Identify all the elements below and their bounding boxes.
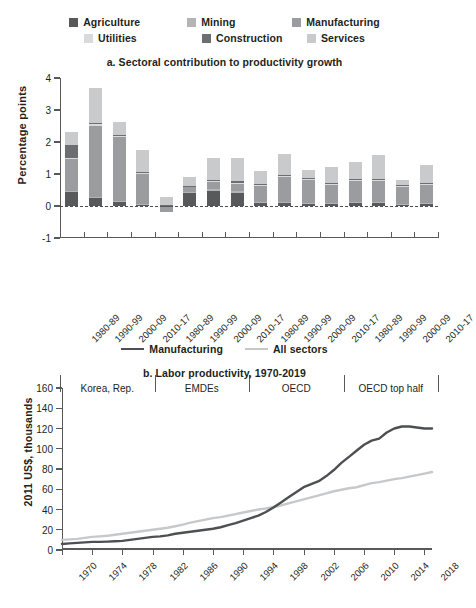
bar-segment — [302, 203, 315, 204]
bar-segment — [65, 159, 78, 191]
bar-segment — [372, 202, 385, 203]
bar-segment — [89, 198, 102, 206]
bar-segment — [349, 162, 362, 179]
bar-segment — [136, 173, 149, 174]
panel-b-x-tick — [122, 550, 123, 555]
bar-segment — [183, 192, 196, 193]
legend-item-all-sectors-line: All sectors — [245, 343, 328, 355]
bar-stack — [396, 78, 409, 238]
panel-a-y-axis-label: Percentage points — [16, 65, 28, 205]
legend-row-1: Agriculture Mining Manufacturing — [69, 16, 380, 28]
panel-b-y-tick-label: 0 — [47, 545, 53, 556]
panel-b-x-tick-label: 1982 — [167, 560, 190, 583]
panel-b-plot-area: 020406080100120140160 — [62, 388, 432, 550]
legend-label-mining: Mining — [201, 16, 235, 28]
panel-b-x-tick-label: 1970 — [76, 560, 99, 583]
bar-segment — [254, 184, 267, 185]
bar-segment — [325, 183, 338, 184]
panel-a-x-tick — [344, 232, 345, 238]
panel-b-y-tick-label: 40 — [42, 504, 53, 515]
bar-segment — [136, 174, 149, 204]
bar-segment — [65, 192, 78, 206]
legend-item-utilities: Utilities — [84, 32, 202, 44]
bar-segment — [89, 126, 102, 197]
bar-segment — [420, 203, 433, 204]
bar-segment — [160, 197, 173, 204]
bar-stack — [207, 78, 220, 238]
bar-segment — [136, 204, 149, 205]
legend-label-manufacturing: Manufacturing — [306, 16, 380, 28]
panel-b-x-tick-label: 2002 — [318, 560, 341, 583]
legend-item-construction: Construction — [202, 32, 307, 44]
bar-segment — [254, 185, 267, 186]
bar-stack — [420, 78, 433, 238]
panel-a-x-tick — [320, 232, 321, 238]
panel-b-x-tick-label: 2014 — [408, 560, 431, 583]
bar-segment — [302, 170, 315, 179]
bar-segment — [349, 203, 362, 206]
panel-a-x-tick — [438, 232, 439, 238]
legend-label-agriculture: Agriculture — [83, 16, 140, 28]
bar-segment — [231, 193, 244, 206]
panel-a-x-tick — [249, 232, 250, 238]
panel-b-x-tick — [273, 550, 274, 555]
bar-segment — [65, 191, 78, 192]
panel-a-x-tick — [155, 232, 156, 238]
panel-a-y-tick-label: 0 — [45, 201, 51, 212]
bar-stack — [278, 78, 291, 238]
panel-b-x-tick — [183, 550, 184, 555]
panel-a-chart: Percentage points -101234 1980-891990-99… — [0, 74, 449, 249]
bar-segment — [325, 185, 338, 204]
bar-segment — [396, 204, 409, 206]
bar-segment — [89, 197, 102, 198]
panel-a-x-tick — [178, 232, 179, 238]
panel-b-x-tick-label: 1990 — [227, 560, 250, 583]
panel-b-x-tick-label: 1974 — [106, 560, 129, 583]
bar-segment — [160, 205, 173, 206]
panel-b-x-tick — [364, 550, 365, 555]
bar-segment — [396, 204, 409, 205]
bar-segment — [325, 167, 338, 183]
panel-b-x-tick-label: 1978 — [137, 560, 160, 583]
panel-b-y-tick-label: 160 — [36, 383, 53, 394]
panel-b-x-tick — [304, 550, 305, 555]
legend-item-manufacturing-line: Manufacturing — [121, 343, 223, 355]
legend-item-manufacturing: Manufacturing — [292, 16, 380, 28]
panel-a-x-tick — [225, 232, 226, 238]
panel-b-y-tick-label: 20 — [42, 524, 53, 535]
legend-label-manufacturing-line: Manufacturing — [149, 343, 223, 355]
panel-b-x-tick — [62, 550, 63, 555]
bar-segment — [254, 202, 267, 203]
bar-segment — [396, 180, 409, 185]
panel-b-x-tick-label: 1998 — [288, 560, 311, 583]
bar-segment — [113, 135, 126, 136]
bar-segment — [278, 202, 291, 203]
panel-a-x-tick — [202, 232, 203, 238]
panel-b-x-tick-labels: 1970197419781982198619901994199820022006… — [62, 560, 432, 606]
panel-a-x-tick — [367, 232, 368, 238]
bar-segment — [254, 186, 267, 202]
line-series — [62, 426, 432, 543]
bar-segment — [420, 183, 433, 184]
bar-segment — [420, 204, 433, 206]
bar-segment — [396, 185, 409, 186]
panel-b-title: b. Labor productivity, 1970-2019 — [0, 367, 449, 379]
panel-b-y-tick-label: 120 — [36, 423, 53, 434]
bar-segment — [231, 183, 244, 184]
legend-swatch-agriculture — [69, 18, 78, 27]
bar-stack — [160, 78, 173, 238]
panel-b-y-tick-label: 80 — [42, 464, 53, 475]
panel-b-y-tick-label: 140 — [36, 403, 53, 414]
panel-a-y-tick-label: -1 — [42, 233, 51, 244]
bar-segment — [372, 179, 385, 180]
bar-segment — [113, 137, 126, 201]
bar-segment — [207, 158, 220, 180]
legend-swatch-manufacturing — [292, 18, 301, 27]
bar-segment — [420, 185, 433, 203]
panel-b-x-tick-label: 2010 — [378, 560, 401, 583]
bar-segment — [231, 181, 244, 182]
bar-segment — [207, 181, 220, 182]
line-series — [62, 472, 432, 540]
bar-segment — [113, 202, 126, 206]
legend-swatch-services — [307, 34, 316, 43]
